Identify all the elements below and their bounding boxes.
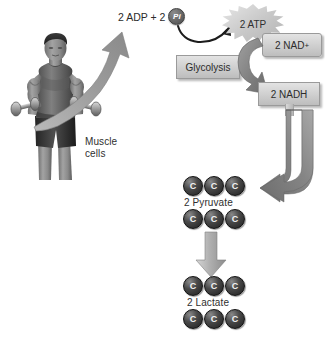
carbon-atom: C	[183, 209, 203, 229]
pyruvate-carbons-bottom: C C C	[183, 209, 245, 229]
carbon-atom: C	[183, 176, 203, 196]
carbon-atom: C	[225, 276, 245, 296]
lactate-label: 2 Lactate	[187, 297, 229, 308]
pyruvate-carbons-top: C C C	[183, 176, 245, 196]
carbon-atom: C	[183, 276, 203, 296]
muscle-cells-line1: Muscle	[85, 136, 117, 148]
carbon-atom: C	[225, 209, 245, 229]
nadh-label: 2 NADH	[271, 89, 308, 100]
diagram-canvas: Muscle cells 2 ADP + 2 Pi 2 ATP	[0, 0, 325, 350]
carbon-atom: C	[204, 309, 224, 329]
glycolysis-label: Glycolysis	[185, 62, 230, 73]
carbon-atom: C	[183, 309, 203, 329]
carbon-atom: C	[225, 176, 245, 196]
nad-plus-superscript: +	[304, 41, 309, 50]
carbon-atom: C	[204, 276, 224, 296]
atp-label: 2 ATP	[240, 19, 267, 30]
carbon-atom: C	[204, 209, 224, 229]
muscle-cells-label: Muscle cells	[85, 136, 117, 160]
glycolysis-box: Glycolysis	[176, 55, 240, 79]
carbon-atom: C	[204, 176, 224, 196]
nadh-box: 2 NADH	[258, 82, 320, 106]
muscle-to-adp-arrow	[30, 30, 175, 130]
nadh-to-pyruvate-arrow	[258, 110, 324, 206]
pyruvate-to-lactate-arrow	[192, 232, 230, 278]
carbon-atom: C	[225, 309, 245, 329]
lactate-carbons-top: C C C	[183, 276, 245, 296]
adp-text: 2 ADP + 2	[118, 11, 165, 23]
pyruvate-label: 2 Pyruvate	[184, 197, 233, 208]
lactate-carbons-bottom: C C C	[183, 309, 245, 329]
muscle-cells-line2: cells	[85, 148, 117, 160]
